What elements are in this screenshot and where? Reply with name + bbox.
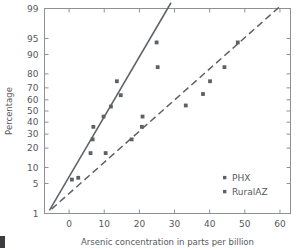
legend-label-phx: PHX [232, 173, 250, 183]
data-point-ruralaz [201, 92, 205, 96]
y-tick-label: 10 [27, 163, 39, 173]
data-point-phx [156, 65, 160, 69]
y-tick-label: 20 [27, 143, 39, 153]
data-point-ruralaz [141, 115, 145, 119]
x-tick-label: 30 [169, 219, 181, 229]
data-point-phx [102, 115, 106, 119]
y-tick-label: 80 [27, 69, 39, 79]
probability-plot-figure: 0102030405060 151020304050607080909599 A… [0, 0, 298, 250]
y-axis-tick-labels: 151020304050607080909599 [27, 4, 39, 219]
y-tick-label: 60 [27, 95, 39, 105]
data-point-phx [155, 41, 159, 45]
data-point-phx [89, 151, 93, 155]
legend-label-ruralaz: RuralAZ [232, 187, 268, 197]
data-point-phx [119, 93, 123, 97]
legend: PHXRuralAZ [223, 173, 268, 197]
y-tick-label: 1 [33, 209, 39, 219]
corner-artifact [0, 236, 5, 248]
y-tick-label: 90 [27, 50, 39, 60]
y-tick-label: 50 [27, 106, 39, 116]
data-point-ruralaz [236, 41, 240, 45]
x-tick-label: 60 [274, 219, 286, 229]
y-tick-label: 70 [27, 83, 39, 93]
x-axis-title: Arsenic concentration in parts per billi… [81, 237, 254, 247]
data-point-ruralaz [130, 137, 134, 141]
y-axis-title: Percentage [4, 87, 14, 135]
x-axis-tick-labels: 0102030405060 [66, 219, 286, 229]
data-point-ruralaz [184, 104, 188, 108]
y-tick-label: 95 [27, 34, 38, 44]
data-point-phx [70, 178, 74, 182]
y-tick-label: 30 [27, 129, 39, 139]
data-point-phx [109, 105, 113, 109]
x-tick-label: 0 [66, 219, 72, 229]
y-tick-label: 5 [33, 179, 39, 189]
y-tick-label: 99 [27, 4, 39, 14]
chart-canvas: 0102030405060 151020304050607080909599 A… [0, 0, 298, 250]
legend-marker-ruralaz [223, 190, 226, 193]
y-tick-label: 40 [27, 117, 39, 127]
x-tick-label: 10 [99, 219, 111, 229]
data-point-phx [91, 137, 95, 141]
data-points [70, 41, 240, 182]
data-point-ruralaz [223, 65, 227, 69]
data-point-phx [76, 176, 80, 180]
x-tick-label: 50 [239, 219, 251, 229]
x-tick-label: 40 [204, 219, 216, 229]
data-point-ruralaz [140, 125, 144, 129]
data-point-ruralaz [208, 79, 212, 83]
x-tick-label: 20 [134, 219, 146, 229]
legend-marker-phx [223, 176, 226, 179]
data-point-phx [91, 125, 95, 129]
data-point-ruralaz [104, 151, 108, 155]
data-point-phx [115, 79, 119, 83]
